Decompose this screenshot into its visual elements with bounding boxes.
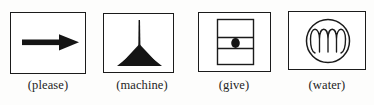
- symbol-cell-give: (give): [188, 0, 280, 105]
- symbol-caption-please: (please): [0, 78, 96, 93]
- symbol-caption-give: (give): [188, 78, 280, 93]
- symbol-box-water: [288, 11, 366, 70]
- water-wave-icon: [289, 12, 366, 70]
- symbol-caption-machine: (machine): [96, 78, 188, 93]
- machine-spindle-icon: [104, 14, 174, 73]
- right-arrow-icon: [11, 13, 86, 74]
- symbol-figure: (please) (machine): [0, 0, 374, 105]
- symbol-caption-water: (water): [280, 78, 374, 93]
- symbol-box-please: [10, 12, 86, 74]
- symbol-cell-water: (water): [280, 0, 374, 105]
- symbol-box-give: [198, 12, 271, 72]
- symbol-cell-machine: (machine): [96, 0, 188, 105]
- give-panel-icon: [199, 13, 271, 72]
- symbol-box-machine: [103, 13, 174, 73]
- symbol-cell-please: (please): [0, 0, 96, 105]
